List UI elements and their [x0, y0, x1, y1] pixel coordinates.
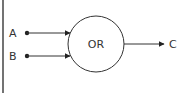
input-b-label: B: [9, 50, 17, 63]
input-a-label: A: [9, 27, 17, 40]
output-c: C: [124, 38, 177, 51]
or-gate-diagram: A B OR C: [0, 0, 184, 93]
input-b: B: [9, 50, 70, 63]
gate-label: OR: [88, 38, 105, 51]
or-gate: OR: [68, 16, 124, 72]
output-c-label: C: [169, 38, 177, 51]
input-a: A: [9, 27, 70, 40]
